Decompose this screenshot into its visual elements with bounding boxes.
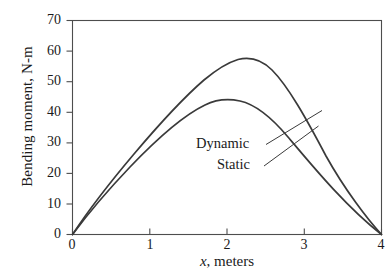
chart-figure: 70 60 50 40 30 20 10 0 0 1 2 3 4 Dynamic… [0,0,389,278]
x-axis-ticks [73,229,382,235]
y-axis-title: Bending moment, N-m [19,7,36,227]
x-axis-title-variable: x [200,253,207,269]
x-tick-label-4: 4 [369,238,389,252]
x-axis-title-units: , meters [207,253,254,269]
y-axis-ticks [67,21,73,235]
x-tick-label-2: 2 [215,238,239,252]
curve-label-dynamic: Dynamic [196,136,249,151]
leader-line-static [264,126,319,166]
x-tick-label-1: 1 [138,238,162,252]
plot-frame [73,21,382,235]
curve-label-static: Static [217,157,250,172]
x-tick-label-3: 3 [292,238,316,252]
x-tick-label-0: 0 [60,238,84,252]
y-tick-label-0: 0 [27,227,61,241]
leader-line-dynamic [266,111,322,145]
x-axis-title: x, meters [72,253,382,270]
